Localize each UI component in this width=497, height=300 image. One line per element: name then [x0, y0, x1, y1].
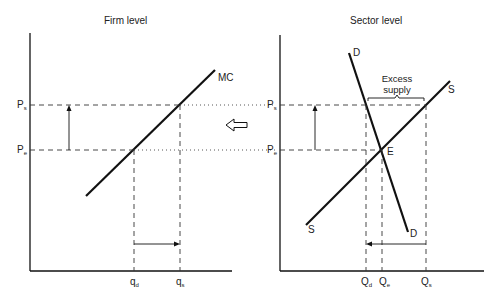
firm-qd-label: qd: [130, 277, 139, 290]
excess-supply-annotation: Excess supply: [372, 73, 422, 95]
sector-qd-label: Qd: [361, 277, 372, 290]
hollow-left-arrow-icon: [226, 119, 247, 131]
demand-top-label: D: [353, 47, 360, 58]
sector-level-title: Sector level: [350, 15, 402, 26]
mc-label: MC: [218, 72, 234, 83]
diagram-canvas: [0, 0, 497, 300]
firm-ps-label: Ps: [17, 100, 27, 113]
sector-pe-label: Pe: [267, 145, 277, 158]
sector-ps-label: Ps: [267, 100, 277, 113]
demand-bottom-label: D: [410, 228, 417, 239]
firm-pe-label: Pe: [17, 145, 27, 158]
equilibrium-label: E: [387, 146, 394, 157]
supply-curve: [306, 81, 450, 225]
sector-qe-label: Qe: [379, 277, 390, 290]
firm-level-title: Firm level: [104, 15, 147, 26]
supply-top-label: S: [448, 84, 455, 95]
firm-qs-label: qs: [176, 277, 185, 290]
sector-qs-label: Qs: [421, 277, 432, 290]
supply-bottom-label: S: [308, 224, 315, 235]
mc-curve: [86, 70, 215, 196]
